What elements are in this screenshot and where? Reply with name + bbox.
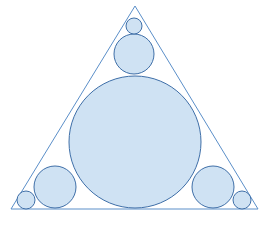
figure-container: Circle packing inside an equilateral tri… [0, 0, 266, 225]
small-circle-bottom-right [233, 191, 251, 209]
medium-circle-bottom-left [34, 166, 76, 208]
medium-circle-top [114, 34, 154, 74]
incircle [69, 76, 201, 208]
medium-circle-bottom-right [192, 166, 234, 208]
circle-packing-diagram: Circle packing inside an equilateral tri… [0, 0, 266, 225]
small-circle-apex [126, 18, 142, 34]
small-circle-bottom-left [17, 191, 35, 209]
